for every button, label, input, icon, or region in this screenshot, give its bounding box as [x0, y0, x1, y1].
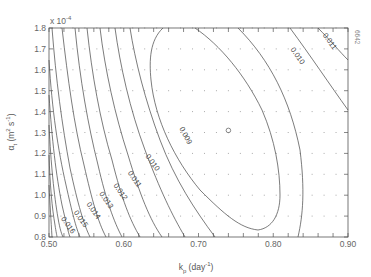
- figure-id: 6642: [354, 30, 361, 45]
- y-multiplier: x 10-4: [50, 15, 72, 26]
- contour-label: 0.011: [321, 31, 339, 51]
- x-tick-label: 0.90: [340, 239, 357, 249]
- y-tick-label: 1.3: [34, 128, 46, 138]
- y-tick-label: 0.9: [34, 211, 46, 221]
- y-tick-label: 1.6: [34, 65, 46, 75]
- contour-label: 0.013: [97, 190, 115, 211]
- y-tick-label: 0.8: [34, 232, 46, 242]
- contour-chart: 0.0090.0100.0110.0120.0130.0140.0150.016…: [0, 0, 371, 277]
- x-tick-labels: 0.500.600.700.800.90: [41, 239, 357, 249]
- x-tick-label: 0.70: [190, 239, 207, 249]
- y-tick-label: 1.4: [34, 107, 46, 117]
- y-tick-label: 1.1: [34, 169, 46, 179]
- contour-label: 0.016: [59, 215, 77, 236]
- x-tick-label: 0.60: [115, 239, 132, 249]
- y-tick-label: 1.5: [34, 86, 46, 96]
- y-tick-label: 1.2: [34, 148, 46, 158]
- y-tick-labels: 0.80.91.01.11.21.31.41.51.61.71.8: [34, 23, 46, 242]
- contour-labels: 0.0090.0100.0110.0120.0130.0140.0150.016…: [59, 31, 339, 235]
- x-axis-label: kp (day-1): [179, 261, 214, 274]
- contour-label: 0.012: [111, 181, 129, 202]
- y-tick-label: 1.8: [34, 23, 46, 33]
- contour-label: 0.011: [126, 169, 144, 189]
- y-tick-label: 1.0: [34, 190, 46, 200]
- y-tick-label: 1.7: [34, 44, 46, 54]
- contour-label: 0.009: [177, 125, 194, 146]
- contour-label: 0.010: [289, 46, 307, 67]
- y-axis-label: αt (m2 s-1): [5, 113, 18, 150]
- x-tick-label: 0.80: [265, 239, 282, 249]
- contour-label: 0.010: [144, 152, 162, 173]
- contour-label: 0.014: [85, 200, 103, 221]
